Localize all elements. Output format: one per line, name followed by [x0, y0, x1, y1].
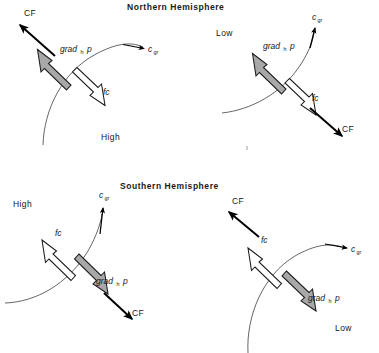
pressure-gradient-label-subscript: h	[81, 49, 84, 55]
pressure-center-label: High	[101, 132, 120, 142]
pressure-gradient-arrow	[75, 254, 109, 294]
centrifugal-arrow	[104, 293, 132, 319]
centrifugal-label: CF	[132, 308, 144, 318]
pressure-gradient-label-variable: p	[289, 41, 295, 51]
coriolis-arrow	[73, 68, 106, 106]
velocity-arrow	[325, 244, 347, 248]
panel-sh-high: c gr fc grad h p CF High	[0, 176, 190, 353]
figure-canvas: Northern Hemisphere Southern Hemisphere …	[0, 0, 379, 353]
pressure-gradient-label: grad	[308, 293, 325, 303]
coriolis-arrow	[42, 240, 76, 281]
centrifugal-label: CF	[232, 196, 244, 206]
coriolis-arrow	[248, 248, 282, 289]
pressure-center-label: Low	[335, 323, 352, 333]
pressure-gradient-label: grad	[263, 41, 280, 51]
pressure-gradient-label-subscript: h	[284, 46, 287, 52]
pressure-center-label: Low	[216, 28, 233, 38]
pressure-gradient-label-variable: p	[334, 293, 340, 303]
coriolis-label: fc	[312, 93, 319, 103]
centrifugal-arrow	[310, 108, 342, 136]
centrifugal-label: CF	[24, 8, 36, 18]
panel-nh-high: c gr grad h p fc CF High	[0, 0, 190, 176]
pressure-gradient-label-variable: p	[86, 44, 92, 54]
coriolis-label: fc	[103, 87, 110, 97]
pressure-gradient-arrow	[282, 271, 316, 311]
pressure-gradient-arrow	[253, 54, 287, 95]
velocity-label-subscript: gr	[318, 17, 323, 23]
pressure-gradient-label-subscript: h	[329, 298, 332, 304]
velocity-label: c	[351, 244, 356, 254]
coriolis-label: fc	[55, 228, 62, 238]
coriolis-label: fc	[261, 235, 268, 245]
pressure-gradient-label: grad	[96, 276, 113, 286]
panel-sh-low: c gr fc grad h p CF Low	[190, 176, 379, 353]
centrifugal-label: CF	[342, 124, 354, 134]
centrifugal-arrow	[229, 212, 259, 237]
pressure-gradient-label: grad	[60, 44, 77, 54]
pressure-center-label: High	[13, 199, 32, 209]
pressure-gradient-label-variable: p	[122, 276, 128, 286]
velocity-label: c	[148, 44, 153, 54]
velocity-label: c	[99, 190, 104, 200]
velocity-label-subscript: gr	[105, 195, 110, 201]
panel-nh-low: c gr grad h p fc CF Low	[190, 0, 379, 176]
velocity-label-subscript: gr	[154, 49, 159, 55]
velocity-label-subscript: gr	[357, 249, 362, 255]
velocity-label: c	[312, 12, 317, 22]
velocity-arrow	[310, 28, 315, 48]
pressure-gradient-label-subscript: h	[117, 281, 120, 287]
